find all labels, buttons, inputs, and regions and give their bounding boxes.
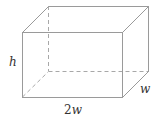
- edge-top-left-depth: [23, 7, 49, 33]
- length-variable: w: [72, 103, 83, 117]
- rectangular-prism-diagram: h 2w w: [0, 0, 158, 121]
- edge-top-right-depth: [123, 7, 149, 33]
- length-coefficient: 2: [64, 103, 72, 117]
- height-label: h: [9, 55, 17, 69]
- hidden-edges: [23, 6, 149, 97]
- hidden-edge-bottom-left-depth: [23, 72, 49, 98]
- width-label: w: [140, 82, 151, 96]
- front-face: [23, 33, 123, 98]
- visible-edges: [23, 7, 149, 98]
- length-label: 2w: [64, 103, 83, 117]
